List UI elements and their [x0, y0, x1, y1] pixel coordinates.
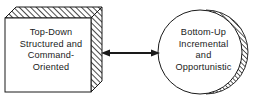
box-right-face: [91, 7, 102, 92]
bottom-up-circle: [158, 8, 254, 98]
top-down-box: [5, 7, 102, 92]
circle-body: [158, 10, 242, 94]
bidirectional-arrow: [101, 49, 160, 56]
diagram-vector-layer: [0, 0, 258, 110]
diagram-canvas: Top-Down Structured and Command- Oriente…: [0, 0, 258, 110]
box-front-face: [5, 18, 91, 92]
box-top-face: [5, 7, 102, 18]
